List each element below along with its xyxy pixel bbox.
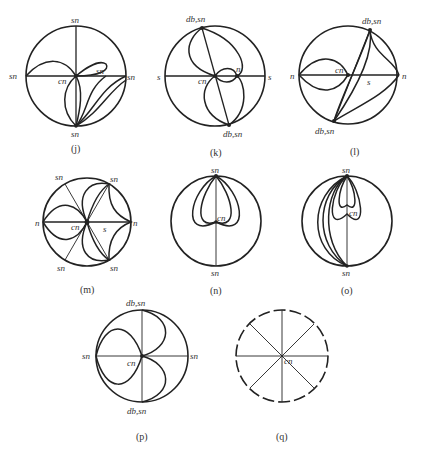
label-p-top: db,sn [126, 298, 146, 308]
label-n-bottom: sn [211, 268, 220, 278]
label-m-right: n [133, 218, 138, 228]
label-m-top-right: sn [110, 174, 119, 184]
label-k-bottom: db,sn [223, 129, 243, 139]
label-j-top: sn [71, 15, 80, 25]
label-k-inner: n [236, 64, 241, 74]
label-m-bottom-left: sn [57, 263, 66, 273]
label-j-inner: sn [96, 66, 105, 76]
phase-portrait-figure: sn sn sn sn cn sn (j) db,sn s s db,sn cn… [0, 0, 421, 455]
caption-n: (n) [210, 285, 222, 297]
label-j-right: sn [127, 72, 136, 82]
label-k-right: s [268, 72, 272, 82]
label-k-center: cn [198, 76, 207, 86]
label-l-left: n [290, 71, 295, 81]
caption-p: (p) [136, 431, 148, 443]
label-p-right: sn [190, 351, 199, 361]
label-j-center: cn [58, 76, 67, 86]
label-n-center: cn [217, 213, 226, 223]
label-m-center: cn [71, 222, 80, 232]
panel-l: db,sn n n db,sn cn s (l) [290, 16, 407, 158]
panel-p: db,sn sn sn db,sn cn (p) [82, 298, 199, 443]
label-m-inner: s [103, 224, 107, 234]
caption-m: (m) [80, 284, 94, 296]
label-o-center: cn [349, 208, 358, 218]
label-p-left: sn [82, 351, 91, 361]
label-l-bottom: db,sn [315, 126, 335, 136]
panel-m: sn sn n n sn sn cn s (m) [35, 172, 138, 296]
label-o-bottom: sn [342, 268, 351, 278]
label-o-top: sn [342, 165, 351, 175]
label-m-top-left: sn [55, 172, 64, 182]
label-m-bottom-right: sn [110, 263, 119, 273]
caption-l: (l) [350, 146, 359, 158]
caption-q: (q) [276, 431, 288, 443]
panel-j: sn sn sn sn cn sn (j) [9, 15, 136, 155]
label-p-center: cn [127, 358, 136, 368]
label-j-left: sn [9, 71, 18, 81]
label-j-bottom: sn [71, 129, 80, 139]
label-p-bottom: db,sn [127, 406, 147, 416]
label-q-center: cn [284, 356, 293, 366]
panel-n: sn sn cn (n) [171, 165, 261, 297]
caption-k: (k) [210, 147, 222, 159]
panel-q: cn (q) [236, 310, 328, 443]
panel-o: sn sn cn (o) [302, 165, 392, 297]
label-k-top: db,sn [186, 14, 206, 24]
label-l-inner: s [367, 77, 371, 87]
label-l-right: n [402, 71, 407, 81]
label-m-left: n [35, 218, 40, 228]
label-l-center: cn [335, 65, 344, 75]
caption-j: (j) [71, 143, 80, 155]
label-n-top: sn [211, 165, 220, 175]
label-k-left: s [157, 72, 161, 82]
label-l-top: db,sn [362, 16, 382, 26]
panel-k: db,sn s s db,sn cn n (k) [157, 14, 272, 159]
caption-o: (o) [341, 285, 353, 297]
